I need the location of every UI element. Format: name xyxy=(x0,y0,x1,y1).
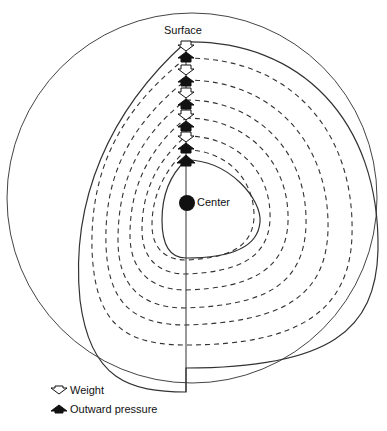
outer-layer-curve xyxy=(78,42,378,392)
core-curve xyxy=(162,160,260,258)
weight-arrow-icon xyxy=(178,65,194,75)
pressure-arrow-icon xyxy=(178,121,194,131)
hollow-down-arrow-icon xyxy=(50,385,68,395)
surface-label: Surface xyxy=(164,24,202,36)
pressure-arrow-icon xyxy=(178,52,194,62)
legend-pressure-label: Outward pressure xyxy=(70,403,157,415)
stellar-equilibrium-diagram xyxy=(0,0,387,431)
legend-weight-label: Weight xyxy=(70,384,104,396)
force-arrows xyxy=(177,41,195,166)
pressure-arrow-icon xyxy=(178,143,194,153)
center-dot xyxy=(179,195,195,211)
weight-arrow-icon xyxy=(178,110,194,120)
center-label: Center xyxy=(197,196,230,208)
legend-pressure: Outward pressure xyxy=(50,403,157,415)
pressure-arrow-icon xyxy=(178,99,194,109)
filled-up-arrow-icon xyxy=(50,404,68,414)
legend-weight: Weight xyxy=(50,384,104,396)
weight-arrow-icon xyxy=(178,88,194,98)
